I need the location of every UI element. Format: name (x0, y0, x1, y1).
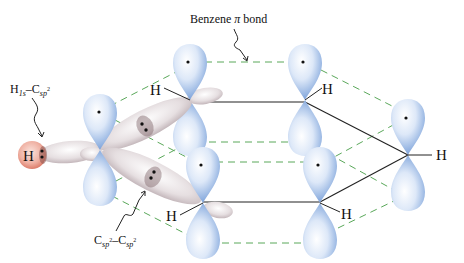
wavy-arrow-icon (116, 192, 145, 231)
h-label-c6: H (166, 208, 177, 224)
hydrogen-sphere-label: H (23, 148, 34, 164)
hydrogen-1s-sphere: H (18, 141, 47, 169)
csp2-csp2-label: Csp2–Csp2 (94, 233, 136, 249)
h-label-c2: H (150, 82, 161, 98)
wavy-arrow-icon (32, 98, 42, 136)
h-label-c4: H (436, 147, 447, 163)
h1s-csp2-label: H1s–Csp2 (10, 82, 50, 98)
h1s-csp2-annotation: H1s–Csp2 (10, 82, 50, 137)
h-label-c5: H (341, 206, 352, 222)
benzene-orbital-diagram: H H H H H H Benzene π bond H1s–Csp2 (0, 0, 464, 263)
wavy-arrow-icon (234, 29, 247, 60)
benzene-pi-bond-label: Benzene π bond (190, 12, 267, 26)
h-label-c3: H (322, 81, 333, 97)
